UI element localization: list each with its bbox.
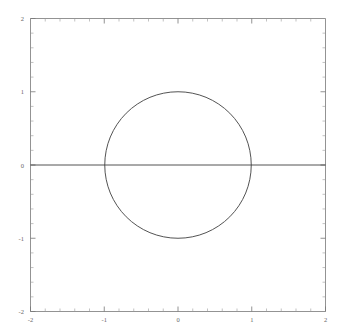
y-tick-label: -2 bbox=[19, 308, 24, 315]
x-tick-label: 0 bbox=[176, 316, 179, 323]
y-tick-label: -1 bbox=[19, 235, 24, 242]
plot-figure: -2 -1 0 1 2 2 1 0 -1 -2 bbox=[0, 0, 340, 336]
y-tick-label: 0 bbox=[21, 162, 24, 169]
x-tick-label: -2 bbox=[28, 316, 33, 323]
x-tick-label: 2 bbox=[324, 316, 327, 323]
x-axis-major-ticks-top bbox=[104, 19, 252, 24]
y-tick-label: 1 bbox=[21, 88, 24, 95]
x-tick-label: 1 bbox=[250, 316, 253, 323]
plot-canvas: -2 -1 0 1 2 2 1 0 -1 -2 bbox=[0, 0, 340, 336]
y-axis-tick-labels: 2 1 0 -1 -2 bbox=[19, 15, 24, 315]
y-tick-label: 2 bbox=[21, 15, 24, 22]
x-tick-label: -1 bbox=[102, 316, 107, 323]
x-axis-tick-labels: -2 -1 0 1 2 bbox=[28, 316, 327, 323]
